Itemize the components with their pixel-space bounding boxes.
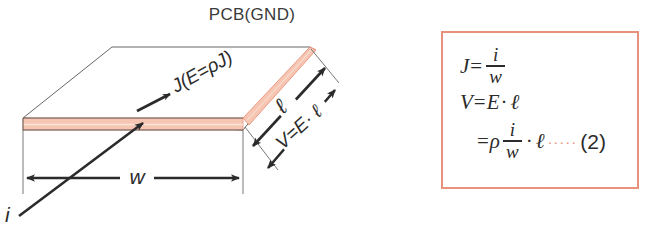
formula-2-dot: · <box>500 92 509 113</box>
formula-list: J = i w V = E · ℓ = ρ i <box>460 45 606 163</box>
formula-3-length: ℓ <box>534 131 545 152</box>
formula-line-1: J = i w <box>460 45 606 87</box>
width-label: w <box>129 165 146 188</box>
formula-2-rhs-symbol: E <box>487 92 500 113</box>
formula-3-rho: ρ <box>490 131 500 152</box>
formula-3-equation-number: (2) <box>580 131 606 152</box>
formula-1-fraction: i w <box>486 45 505 87</box>
formula-3-numerator: i <box>507 120 518 140</box>
formula-3-dot: · <box>525 131 534 152</box>
formula-3-equals: = <box>476 131 490 152</box>
formula-1-equals: = <box>469 56 483 77</box>
formula-1-numerator: i <box>490 45 501 65</box>
formula-3-denominator: w <box>503 142 522 163</box>
formula-1-denominator: w <box>486 67 505 88</box>
formula-1-lhs: J <box>460 56 469 77</box>
formula-box: J = i w V = E · ℓ = ρ i <box>441 31 639 189</box>
formula-2-length: ℓ <box>509 92 520 113</box>
formula-2-equals: = <box>473 92 487 113</box>
current-label: i <box>5 203 11 226</box>
formula-2-lhs: V <box>460 92 473 113</box>
formula-line-3: = ρ i w · ℓ ····· (2) <box>460 120 606 162</box>
figure-root: PCB(GND) w i J(E=ρJ) <box>0 0 645 229</box>
page-title: PCB(GND) <box>209 5 295 24</box>
formula-3-fraction: i w <box>503 120 522 162</box>
formula-line-2: V = E · ℓ <box>460 92 606 113</box>
formula-3-leader-dots: ····· <box>544 134 580 149</box>
